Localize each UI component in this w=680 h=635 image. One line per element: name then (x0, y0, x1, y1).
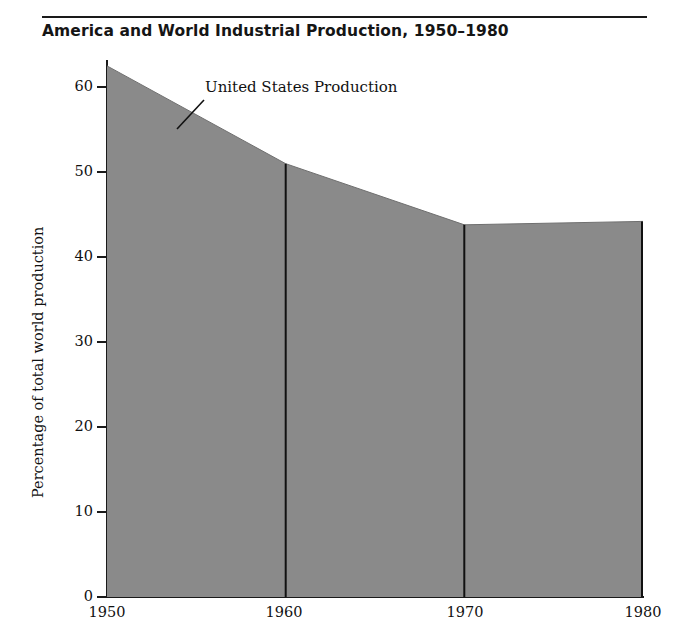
y-tick-mark-30 (97, 341, 106, 343)
series-area-united-states-production (107, 66, 643, 597)
y-tick-mark-0 (97, 596, 106, 598)
y-tick-label-0: 0 (49, 588, 93, 604)
plot-area (107, 60, 643, 597)
y-tick-mark-60 (97, 86, 106, 88)
x-tick-label-1960: 1960 (244, 604, 324, 620)
y-tick-label-20-wrap: 20 (44, 418, 93, 436)
y-tick-label-60-wrap: 60 (44, 78, 93, 96)
y-tick-label-20: 20 (49, 418, 93, 434)
y-tick-mark-20 (97, 426, 106, 428)
y-tick-label-50-wrap: 50 (44, 163, 93, 181)
x-tick-label-1950: 1950 (67, 604, 147, 620)
y-tick-label-40-wrap: 40 (44, 248, 93, 266)
y-tick-label-10-wrap: 10 (44, 503, 93, 521)
area-chart-svg (107, 60, 643, 597)
y-tick-label-40: 40 (49, 248, 93, 264)
x-tick-label-1970: 1970 (425, 604, 505, 620)
series-annotation-label: United States Production (205, 78, 397, 96)
y-tick-label-30-wrap: 30 (44, 333, 93, 351)
y-tick-label-60: 60 (49, 78, 93, 94)
y-tick-mark-50 (97, 171, 106, 173)
page-title: America and World Industrial Production,… (42, 22, 652, 40)
y-tick-label-10: 10 (49, 503, 93, 519)
y-tick-mark-10 (97, 511, 106, 513)
x-tick-label-1980: 1980 (603, 604, 680, 620)
y-tick-label-30: 30 (49, 333, 93, 349)
figure-container: America and World Industrial Production,… (0, 0, 680, 635)
y-tick-label-50: 50 (49, 163, 93, 179)
title-rule (42, 16, 647, 18)
y-tick-mark-40 (97, 256, 106, 258)
